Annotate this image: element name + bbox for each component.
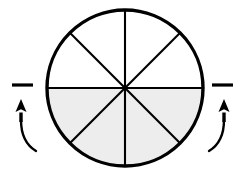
right-curved-tail-icon [209,120,224,151]
rotation-marker-right [209,85,233,151]
rotation-marker-left [12,85,36,151]
diagram-canvas: Circle divided into eighths with bottom … [0,0,241,179]
left-curved-tail-icon [21,120,36,151]
left-arrow-head-icon [16,99,27,112]
circle-eighths-figure: Circle divided into eighths with bottom … [0,0,241,179]
right-arrow-head-icon [219,99,230,112]
